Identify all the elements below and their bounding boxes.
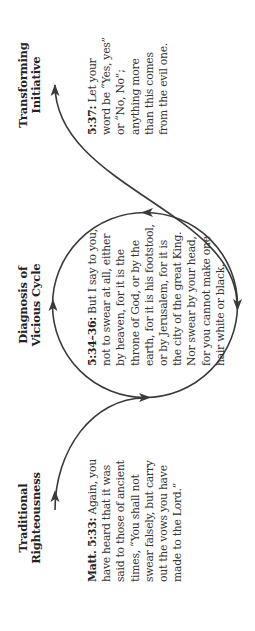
passage-matt-5-34-36: 5:34–36: But I say to you, not to swear … xyxy=(86,220,228,366)
heading-line: Initiative xyxy=(30,35,43,135)
heading-diagnosis-vicious-cycle: Diagnosis of Vicious Cycle xyxy=(17,249,43,361)
verse-text: Again, you have heard that it was said t… xyxy=(86,459,184,582)
passage-matt-5-33: Matt. 5:33: Again, you have heard that i… xyxy=(86,446,185,582)
heading-transforming-initiative: Transforming Initiative xyxy=(17,35,43,135)
verse-reference: Matt. 5:33: xyxy=(86,518,99,582)
verse-reference: 5:34–36: xyxy=(86,317,99,366)
heading-line: Vicious Cycle xyxy=(30,249,43,361)
passage-matt-5-37: 5:37: Let your word be “Yes, yes” or “No… xyxy=(86,35,171,135)
diagram-canvas: Traditional Righteousness Matt. 5:33: Ag… xyxy=(0,0,255,631)
heading-traditional-righteousness: Traditional Righteousness xyxy=(17,465,43,571)
verse-text: But I say to you, not to swear at all, e… xyxy=(86,224,227,366)
heading-line: Righteousness xyxy=(30,465,43,571)
verse-reference: 5:37: xyxy=(86,106,99,135)
